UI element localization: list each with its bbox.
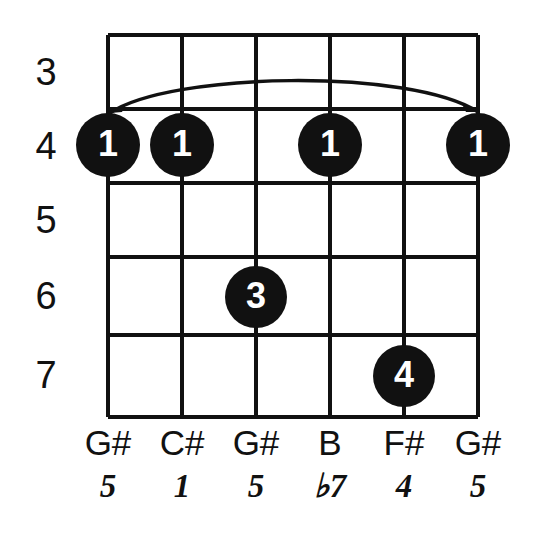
interval-string-6: 5 [441, 470, 515, 503]
finger-dot-label: 1 [320, 126, 340, 162]
fret-number-7: 7 [18, 356, 74, 394]
fret-number-4: 4 [18, 127, 74, 165]
fret-number-5: 5 [18, 201, 74, 239]
chord-diagram: 3 4 5 6 7 1 1 1 1 3 4 G# C# G# B F# G# 5… [0, 0, 533, 541]
interval-string-5: 4 [367, 470, 441, 503]
interval-string-4: ♭7 [293, 470, 367, 503]
finger-dot-string6-fret4[interactable]: 1 [446, 113, 510, 177]
note-name-string-3: G# [219, 425, 293, 460]
interval-string-1: 5 [71, 470, 145, 503]
finger-dot-label: 1 [98, 126, 118, 162]
note-name-string-5: F# [367, 425, 441, 460]
finger-dot-string1-fret4[interactable]: 1 [76, 113, 140, 177]
note-name-string-1: G# [71, 425, 145, 460]
note-name-string-6: G# [441, 425, 515, 460]
finger-dot-string2-fret4[interactable]: 1 [150, 113, 214, 177]
finger-dot-label: 1 [172, 126, 192, 162]
note-name-string-2: C# [145, 425, 219, 460]
note-name-string-4: B [293, 425, 367, 460]
finger-dot-string3-fret6[interactable]: 3 [225, 266, 287, 328]
finger-dot-label: 1 [468, 126, 488, 162]
fret-number-6: 6 [18, 277, 74, 315]
fret-number-3: 3 [18, 53, 74, 91]
finger-dot-string5-fret7[interactable]: 4 [373, 345, 435, 407]
finger-dot-string4-fret4[interactable]: 1 [298, 113, 362, 177]
finger-dot-label: 4 [394, 357, 414, 393]
finger-dot-label: 3 [246, 278, 266, 314]
interval-string-3: 5 [219, 470, 293, 503]
interval-string-2: 1 [145, 470, 219, 503]
